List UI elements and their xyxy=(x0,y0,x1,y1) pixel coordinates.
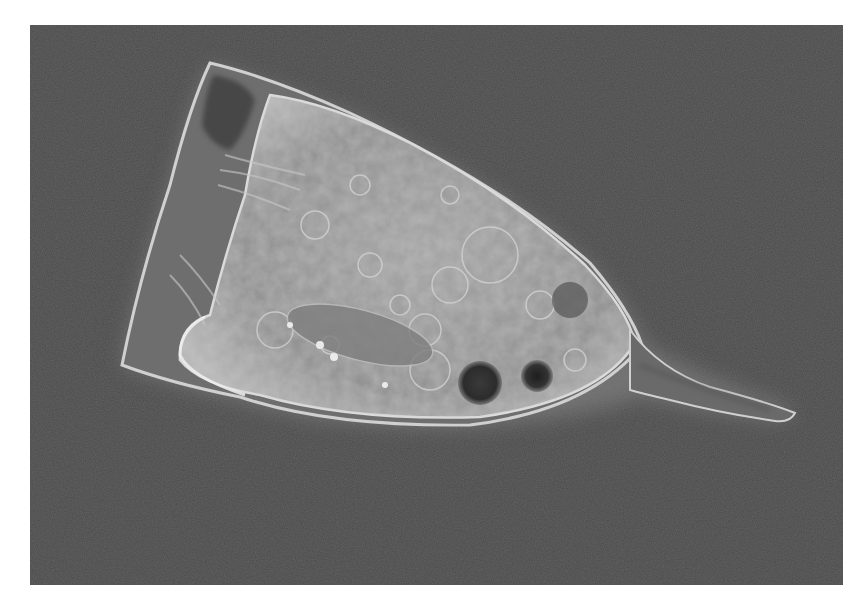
food-vacuole xyxy=(458,361,502,405)
food-vacuole xyxy=(552,282,588,318)
micrograph-frame xyxy=(30,25,843,585)
micrograph-image xyxy=(30,25,843,585)
food-vacuole xyxy=(521,360,553,392)
